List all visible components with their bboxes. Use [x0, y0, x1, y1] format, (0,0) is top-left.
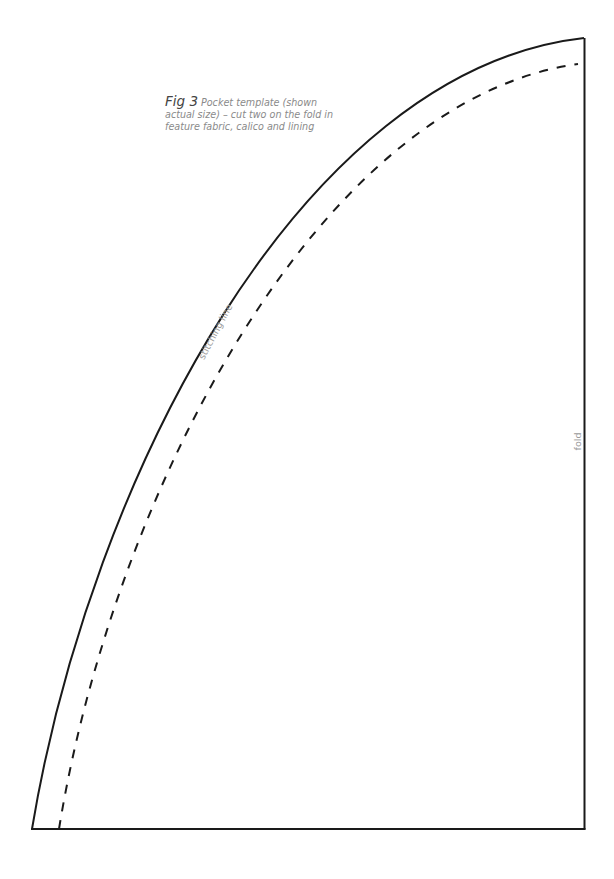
figure-label: Fig 3 [165, 93, 198, 109]
stitching-line-dashed [59, 64, 578, 829]
fold-label: fold [572, 433, 583, 451]
figure-caption: Fig 3Pocket template (shown actual size)… [165, 95, 335, 133]
cut-line-curve [32, 38, 584, 829]
